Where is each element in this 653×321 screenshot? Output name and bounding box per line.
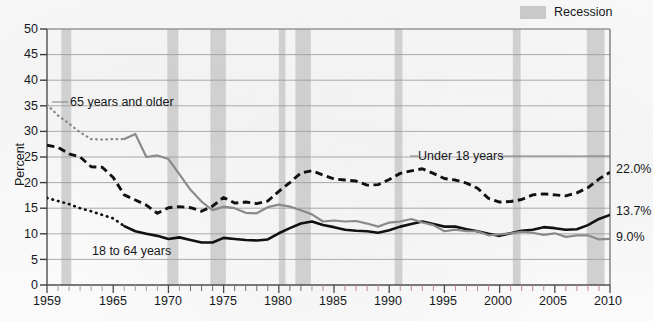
series-annotation-under18: Under 18 years — [418, 150, 503, 163]
chart-canvas — [0, 0, 653, 321]
x-tick-1970: 1970 — [140, 295, 196, 308]
x-tick-1995: 1995 — [415, 295, 471, 308]
y-tick-20: 20 — [12, 177, 38, 190]
y-tick-35: 35 — [12, 100, 38, 113]
y-tick-0: 0 — [12, 279, 38, 292]
y-tick-25: 25 — [12, 151, 38, 164]
series-line-under18 — [47, 145, 610, 213]
y-tick-30: 30 — [12, 125, 38, 138]
series-line-seniors-estimated — [47, 105, 124, 140]
x-tick-1985: 1985 — [305, 295, 361, 308]
x-tick-1980: 1980 — [250, 295, 306, 308]
x-tick-1990: 1990 — [360, 295, 416, 308]
y-tick-50: 50 — [12, 23, 38, 36]
series-line-seniors — [124, 134, 610, 239]
x-tick-2005: 2005 — [525, 295, 581, 308]
y-tick-5: 5 — [12, 254, 38, 267]
end-label-under18: 22.0% — [616, 163, 651, 176]
y-tick-40: 40 — [12, 74, 38, 87]
end-label-adults: 13.7% — [616, 205, 651, 218]
x-tick-2000: 2000 — [470, 295, 526, 308]
x-tick-1965: 1965 — [85, 295, 141, 308]
legend-recession-label: Recession — [554, 6, 612, 19]
series-annotation-adults: 18 to 64 years — [92, 245, 171, 258]
poverty-rate-chart: Percent 50 45 40 35 30 25 20 15 10 5 0 1… — [0, 0, 653, 321]
legend-recession-swatch — [520, 6, 546, 19]
series-line-adults-estimated — [47, 198, 124, 226]
y-tick-10: 10 — [12, 228, 38, 241]
data-series-group — [47, 105, 610, 243]
series-annotation-seniors: 65 years and older — [70, 96, 174, 109]
x-axis-ticks — [47, 285, 610, 293]
y-tick-15: 15 — [12, 202, 38, 215]
x-tick-1959: 1959 — [19, 295, 75, 308]
x-tick-1975: 1975 — [195, 295, 251, 308]
y-tick-45: 45 — [12, 48, 38, 61]
annotation-leader-lines — [52, 102, 610, 156]
series-line-adults — [124, 215, 610, 243]
y-axis-ticks — [40, 29, 47, 285]
x-tick-2010: 2010 — [580, 295, 636, 308]
end-label-seniors: 9.0% — [616, 231, 645, 244]
